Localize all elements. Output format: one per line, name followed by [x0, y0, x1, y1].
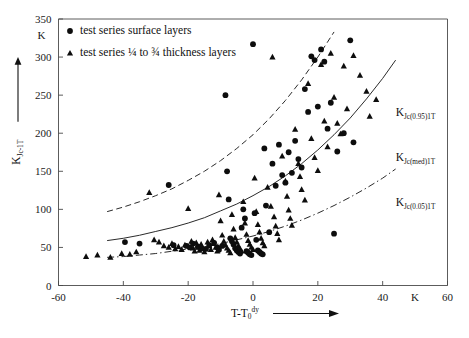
data-point-triangle [151, 236, 157, 242]
data-point-triangle [286, 207, 292, 213]
data-point-triangle [305, 80, 311, 86]
x-tick-label: -60 [51, 291, 66, 303]
data-point-triangle [258, 235, 264, 241]
data-point-triangle [216, 192, 222, 198]
y-tick-label: 0 [46, 280, 52, 292]
data-point-triangle [321, 118, 327, 124]
data-point-triangle [264, 184, 270, 190]
data-point-triangle [279, 153, 285, 159]
legend-label: test series ¼ to ¾ thickness layers [80, 46, 236, 59]
data-point-triangle [255, 221, 261, 227]
data-point-triangle [242, 220, 248, 226]
data-point-circle [223, 92, 229, 98]
data-point-circle [263, 203, 269, 209]
legend-label: test series surface layers [80, 24, 192, 37]
data-point-triangle [252, 175, 258, 181]
data-point-triangle [273, 223, 279, 229]
y-tick-label: 300 [35, 51, 52, 63]
x-axis-title: T-T0dy [231, 305, 339, 322]
data-point-triangle [357, 72, 363, 78]
data-point-triangle [363, 88, 369, 94]
data-point-circle [318, 47, 324, 53]
data-point-triangle [198, 241, 204, 247]
data-point-triangle [331, 94, 337, 100]
data-point-circle [276, 142, 282, 148]
data-point-triangle [328, 50, 334, 56]
x-tick-label: -40 [116, 291, 131, 303]
scatter-plot-svg: -60-40-200204060050100150200250300350KK … [0, 0, 469, 338]
annotation-text: KJc(0.05)1T [396, 196, 436, 211]
data-point-circle [166, 182, 172, 188]
y-tick-label: 200 [35, 127, 52, 139]
x-tick-label: 20 [312, 291, 324, 303]
data-point-triangle [271, 214, 277, 220]
curve-KJc(0.95)1T [107, 32, 334, 212]
data-point-triangle [302, 197, 308, 203]
data-point-circle [261, 146, 267, 152]
data-point-circle [331, 231, 337, 237]
data-point-triangle [185, 205, 191, 211]
data-point-triangle [344, 106, 350, 112]
axis-titles: T-T0dyKJc-1T [10, 57, 339, 321]
data-point-circle [279, 172, 285, 178]
data-point-circle [334, 149, 340, 155]
data-point-triangle [146, 189, 152, 195]
data-point-circle [286, 149, 292, 155]
legend-marker-circle-icon [67, 28, 73, 34]
data-point-circle [302, 86, 308, 92]
x-axis-arrow-head-icon [329, 310, 339, 317]
data-point-triangle [334, 120, 340, 126]
data-point-circle [351, 139, 357, 145]
data-point-triangle [133, 249, 139, 255]
data-point-triangle [282, 178, 288, 184]
annotation-text: KJc(med)1T [396, 151, 436, 166]
data-point-circle [248, 252, 254, 258]
curve-annotations: KJc(0.95)1TKJc(med)1TKJc(0.05)1T [396, 106, 436, 210]
data-point-triangle [367, 113, 373, 119]
x-tick-label: 0 [250, 291, 256, 303]
data-point-triangle [229, 211, 235, 217]
data-point-circle [292, 138, 298, 144]
data-point-circle [347, 37, 353, 43]
legend-marker-triangle-icon [67, 50, 73, 56]
y-axis-unit-label: K [38, 29, 46, 41]
legend-item-surface-layers: test series surface layers [67, 24, 192, 37]
y-axis-arrow-head-icon [15, 57, 22, 65]
data-point-circle [240, 206, 246, 212]
data-point-triangle [217, 217, 223, 223]
data-point-circle [273, 183, 279, 189]
y-tick-label: 50 [41, 241, 53, 253]
data-point-circle [137, 241, 143, 247]
data-point-triangle [341, 63, 347, 69]
axis-ticks [59, 19, 448, 286]
data-point-triangle [292, 126, 298, 132]
data-point-triangle [230, 226, 236, 232]
chart-figure: -60-40-200204060050100150200250300350KK … [0, 0, 469, 338]
data-point-circle [122, 239, 128, 245]
plot-frame [59, 19, 448, 286]
y-tick-label: 350 [35, 13, 52, 25]
data-points [83, 37, 379, 259]
data-point-circle [250, 41, 256, 47]
data-point-triangle [299, 186, 305, 192]
data-point-circle [270, 161, 276, 167]
chart-legend: test series surface layerstest series ¼ … [67, 24, 236, 59]
data-point-circle [224, 168, 230, 174]
annotation-KJc(0.05)1T: KJc(0.05)1T [396, 196, 436, 211]
data-point-triangle [350, 52, 356, 58]
plot-area-border [59, 19, 448, 286]
series-surface-layers [122, 37, 356, 258]
x-tick-label: 40 [377, 291, 389, 303]
curve-KJc(med)1T [107, 60, 396, 240]
data-point-circle [328, 100, 334, 106]
x-tick-label: -20 [181, 291, 196, 303]
data-point-circle [253, 237, 259, 243]
data-point-triangle [274, 230, 280, 236]
data-point-triangle [373, 96, 379, 102]
y-axis-title-text: KJc-1T [10, 139, 25, 165]
data-point-triangle [276, 236, 282, 242]
data-point-triangle [315, 167, 321, 173]
legend-item-thickness-layers: test series ¼ to ¾ thickness layers [67, 46, 236, 59]
data-point-triangle [94, 252, 100, 258]
annotation-KJc(med)1T: KJc(med)1T [396, 151, 436, 166]
